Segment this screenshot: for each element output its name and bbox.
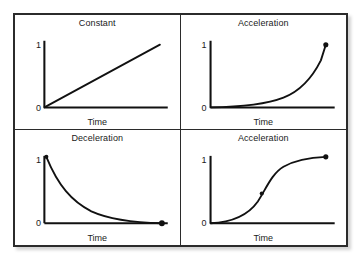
panel-title: Constant: [15, 18, 180, 29]
data-curve-exponential: [210, 45, 325, 108]
figure-frame: Constant 1 0 Time Acceleration 1 0: [13, 13, 348, 247]
data-point-marker-start: [44, 155, 48, 159]
chart-svg: [181, 29, 347, 129]
chart-panel-acceleration-sigmoid: Acceleration 1 0 Time: [181, 130, 347, 245]
data-curve-decay: [46, 157, 162, 223]
data-curve-sigmoid: [210, 157, 325, 223]
plot-area: 1 0 Time: [15, 144, 180, 245]
chart-svg: [181, 144, 347, 245]
panel-title: Acceleration: [181, 133, 347, 144]
x-axis-label: Time: [181, 117, 347, 127]
data-point-marker-end: [323, 154, 328, 159]
panel-title: Acceleration: [181, 18, 347, 29]
chart-panel-acceleration-exponential: Acceleration 1 0 Time: [181, 15, 347, 130]
data-point-marker-end: [159, 220, 165, 226]
data-point-marker-end: [323, 42, 328, 47]
x-axis-label: Time: [181, 233, 347, 243]
chart-panel-deceleration: Deceleration 1 0 Time: [15, 130, 181, 245]
panel-title: Deceleration: [15, 133, 180, 144]
chart-svg: [15, 29, 180, 129]
plot-area: 1 0 Time: [15, 29, 180, 129]
data-point-marker-inflection: [259, 191, 263, 195]
x-axis-label: Time: [15, 117, 180, 127]
plot-area: 1 0 Time: [181, 29, 347, 129]
x-axis-label: Time: [15, 233, 180, 243]
panel-grid: Constant 1 0 Time Acceleration 1 0: [15, 15, 346, 245]
plot-area: 1 0 Time: [181, 144, 347, 245]
data-curve-constant: [44, 45, 160, 108]
chart-panel-constant: Constant 1 0 Time: [15, 15, 181, 130]
chart-svg: [15, 144, 180, 245]
